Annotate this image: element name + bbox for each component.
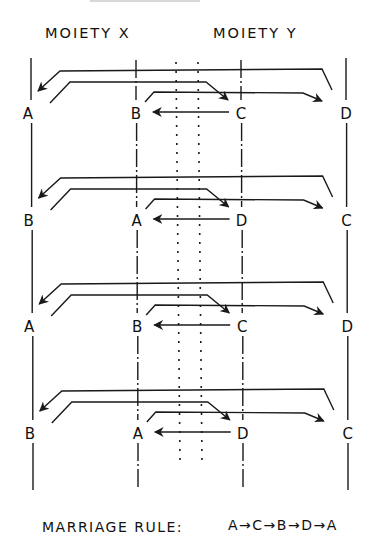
arrow-outer	[39, 176, 333, 198]
section-label: D	[341, 318, 353, 336]
arrow-outer	[40, 389, 334, 411]
section-label: C	[237, 318, 247, 336]
section-label: B	[131, 105, 141, 123]
section-label: C	[343, 425, 353, 443]
marriage-rule-sequence: A→C→B→D→A	[228, 517, 338, 533]
moiety-y-heading: MOIETY Y	[213, 25, 298, 41]
section-label: D	[236, 212, 248, 230]
section-label: D	[237, 425, 249, 443]
section-label: A	[131, 212, 142, 230]
section-label: D	[340, 105, 352, 123]
section-label: B	[23, 212, 33, 230]
section-label: B	[132, 318, 142, 336]
section-label: B	[25, 425, 35, 443]
section-label: C	[236, 105, 246, 123]
section-label: A	[133, 425, 144, 443]
moiety-x-heading: MOIETY X	[45, 25, 131, 41]
section-label: A	[24, 318, 35, 336]
marriage-arrows	[38, 69, 334, 432]
section-label: A	[23, 105, 34, 123]
section-labels: ABCDBADCABCDBADC	[23, 105, 353, 443]
arrow-inner	[147, 412, 324, 422]
arrow-outer	[39, 282, 333, 304]
arrow-inner	[145, 92, 322, 102]
moiety-marriage-diagram: MOIETY X MOIETY Y ABCDBADCABCDBADC MARRI…	[0, 0, 379, 551]
arrow-inner	[146, 199, 323, 209]
marriage-rule-label: MARRIAGE RULE:	[42, 519, 183, 535]
arrow-inner	[146, 305, 323, 315]
section-lines	[31, 58, 348, 490]
arrow-outer	[38, 69, 332, 91]
section-label: C	[341, 212, 351, 230]
